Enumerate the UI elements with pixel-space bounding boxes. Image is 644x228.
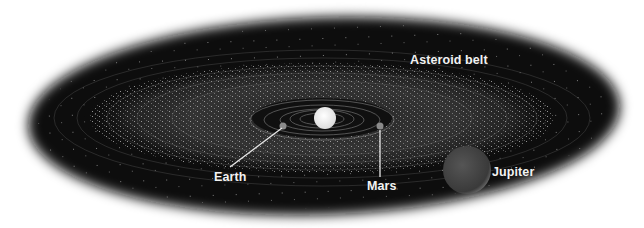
earth-label: Earth [214, 170, 246, 184]
mars-planet [377, 123, 384, 130]
sun [314, 107, 336, 129]
asteroid-belt-label: Asteroid belt [410, 53, 488, 67]
jupiter-planet [443, 146, 491, 194]
mars-label: Mars [367, 179, 397, 193]
jupiter-label: Jupiter [492, 165, 534, 179]
solar-system-diagram [0, 0, 644, 228]
